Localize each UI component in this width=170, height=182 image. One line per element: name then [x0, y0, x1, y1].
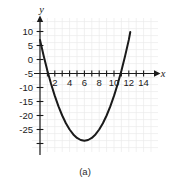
x-tick-label: 4: [67, 77, 72, 88]
y-tick-label: -15: [19, 96, 33, 107]
x-tick-label: 2: [52, 77, 57, 88]
y-tick-label: -20: [19, 110, 33, 121]
figure-caption: (a): [0, 166, 170, 177]
x-axis-label: x: [160, 68, 166, 79]
figure-panel: 2 4 6 8 10 12 14 x 10 5 0: [0, 0, 170, 182]
y-tick-label: -10: [19, 82, 33, 93]
x-tick-label: 14: [138, 77, 149, 88]
parabola-chart: 2 4 6 8 10 12 14 x 10 5 0: [0, 0, 170, 182]
x-axis: 2 4 6 8 10 12 14 x: [34, 68, 166, 88]
y-tick-label: -25: [19, 124, 33, 135]
y-tick-label: 10: [22, 26, 33, 37]
y-axis: 10 5 0 -5 -10 -15 -20 -25 y: [19, 4, 44, 155]
y-tick-label: -5: [25, 68, 33, 79]
y-axis-label: y: [38, 4, 44, 15]
x-tick-label: 12: [124, 77, 135, 88]
y-tick-label: 0: [28, 54, 33, 65]
x-tick-label: 8: [97, 77, 102, 88]
y-tick-label: 5: [28, 40, 33, 51]
x-tick-label: 6: [82, 77, 87, 88]
